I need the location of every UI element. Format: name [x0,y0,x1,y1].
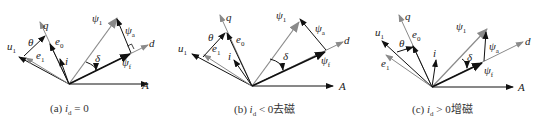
svg-text:ψa: ψa [489,40,500,55]
panel-a: q d A u1 e1 e0 i θ δ ψ1 ψa ψf (a) id = 0 [7,12,155,117]
svg-text:θ: θ [208,31,214,43]
psif-vector [252,52,325,86]
u1-vector [382,41,432,87]
svg-text:q: q [405,10,411,22]
psia-vector [484,32,486,61]
svg-text:e0: e0 [236,33,245,48]
svg-text:ψa: ψa [125,24,136,39]
svg-text:ψf: ψf [122,56,132,71]
svg-text:e1: e1 [381,57,390,72]
svg-text:ψ1: ψ1 [92,12,103,27]
svg-text:d: d [149,37,155,49]
svg-text:e1: e1 [36,49,45,64]
svg-text:u1: u1 [7,40,17,55]
svg-text:A: A [517,81,525,93]
svg-text:q: q [43,19,49,31]
psif-vector [432,63,482,87]
svg-text:e1: e1 [212,42,221,57]
svg-text:ψf: ψf [484,64,494,79]
svg-text:i: i [228,50,231,62]
caption-b: (b) id < 0去磁 [234,103,295,118]
psi1-vector [69,18,117,84]
svg-text:d: d [344,34,350,46]
svg-text:i: i [65,55,68,67]
svg-text:A: A [141,79,149,91]
svg-text:δ: δ [467,51,473,63]
caption-a: (a) id = 0 [50,102,89,117]
svg-text:θ: θ [399,37,405,49]
svg-text:q: q [226,11,232,23]
svg-text:ψf: ψf [321,54,331,69]
psi1-vector [252,22,299,86]
svg-text:u1: u1 [178,42,188,57]
svg-text:i: i [433,47,436,59]
svg-text:ψa: ψa [315,22,326,37]
panel-c: q d A u1 e1 e0 i θ δ ψ1 ψa ψf (c) id > 0… [375,10,531,118]
caption-c: (c) id > 0增磁 [412,102,473,118]
delta-arc [270,59,283,70]
svg-text:A: A [338,80,346,92]
svg-text:ψ1: ψ1 [456,20,467,35]
svg-text:δ: δ [283,50,289,62]
svg-text:d: d [525,35,531,47]
panel-b: q d A u1 e1 e0 i θ δ ψ1 ψa ψf (b) id < 0… [178,9,350,118]
svg-text:ψ1: ψ1 [276,9,287,24]
svg-text:e0: e0 [55,35,64,50]
psi1-vector [432,29,487,87]
u1-vector [192,54,252,86]
svg-text:u1: u1 [375,26,385,41]
svg-text:θ: θ [28,36,34,48]
svg-text:δ: δ [95,52,101,64]
i-vector [234,60,252,86]
svg-text:e0: e0 [412,28,421,43]
phasor-diagrams: q d A u1 e1 e0 i θ δ ψ1 ψa ψf (a) id = 0… [0,0,536,129]
